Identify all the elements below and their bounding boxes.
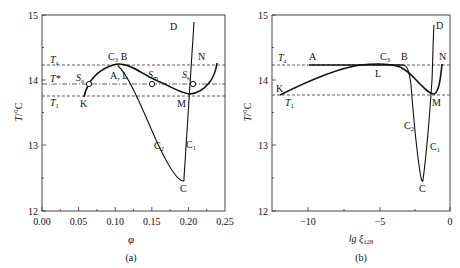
x-tick-label: 0.20 bbox=[180, 216, 198, 227]
point-Sa bbox=[86, 81, 91, 86]
y-axis-label-b: T/°C bbox=[242, 102, 253, 121]
panel-b: 15 14 13 12 T/°C −10 −5 0 lg ξ128 (b) Ta bbox=[242, 10, 453, 264]
label-L-b: L bbox=[375, 68, 381, 79]
x-tick-label: −10 bbox=[300, 216, 316, 227]
x-tick-label: 0.00 bbox=[33, 216, 51, 227]
x-tick-label: −5 bbox=[375, 216, 386, 227]
label-C3-b: C3 bbox=[380, 51, 390, 63]
y-tick-label: 13 bbox=[28, 140, 38, 151]
label-Sm: Sm bbox=[148, 69, 158, 81]
plot-frame-a bbox=[42, 15, 225, 211]
label-C: C bbox=[180, 183, 187, 194]
label-C-b: C bbox=[419, 183, 426, 194]
panel-caption-b: (b) bbox=[355, 252, 367, 264]
label-Ta-b: Ta bbox=[278, 52, 287, 64]
label-T1: T1 bbox=[50, 97, 59, 109]
label-K-b: K bbox=[276, 83, 284, 94]
label-D: D bbox=[170, 21, 177, 32]
label-C3B: C₃ B bbox=[108, 51, 128, 62]
label-N-b: N bbox=[439, 51, 446, 62]
y-tick-label: 15 bbox=[28, 10, 38, 21]
x-tick-label: 0.25 bbox=[216, 216, 234, 227]
label-M-b: M bbox=[432, 97, 441, 108]
label-D-b: D bbox=[436, 20, 443, 31]
label-N: N bbox=[198, 51, 205, 62]
label-Ss: Ss bbox=[182, 69, 190, 81]
curve-K-L-M-N-b bbox=[280, 64, 442, 95]
y-tick-label: 14 bbox=[28, 75, 38, 86]
plot-frame-b bbox=[272, 15, 450, 211]
x-tick-label: 0 bbox=[448, 216, 453, 227]
figure: 15 14 13 12 T/°C 0.00 0.05 0.10 0.15 0.2… bbox=[0, 0, 460, 268]
x-axis-a: 0.00 0.05 0.10 0.15 0.20 0.25 bbox=[33, 207, 234, 227]
x-tick-label: 0.15 bbox=[143, 216, 161, 227]
x-axis-b: −10 −5 0 bbox=[300, 207, 452, 227]
label-Sa: Sa bbox=[76, 72, 84, 84]
label-C2: C2 bbox=[154, 140, 164, 152]
panel-a: 15 14 13 12 T/°C 0.00 0.05 0.10 0.15 0.2… bbox=[13, 10, 234, 264]
label-Ta: Ta bbox=[50, 54, 59, 66]
label-Tstar: T* bbox=[50, 73, 61, 84]
label-C1-b: C1 bbox=[430, 141, 440, 153]
label-K: K bbox=[80, 98, 88, 109]
x-axis-label-b: lg ξ128 bbox=[349, 233, 373, 245]
label-C2-b: C2 bbox=[404, 120, 414, 132]
point-Sm bbox=[149, 81, 154, 86]
y-tick-label: 15 bbox=[258, 10, 268, 21]
y-axis-label-a: T/°C bbox=[13, 102, 24, 121]
label-A-b: A bbox=[309, 51, 317, 62]
y-tick-label: 13 bbox=[258, 140, 268, 151]
x-tick-label: 0.05 bbox=[70, 216, 88, 227]
y-tick-label: 14 bbox=[258, 75, 268, 86]
y-tick-label: 12 bbox=[258, 206, 268, 217]
y-axis-b: 15 14 13 12 bbox=[258, 10, 276, 217]
label-AL: A, L bbox=[110, 70, 128, 81]
panel-caption-a: (a) bbox=[125, 252, 136, 264]
label-M: M bbox=[177, 98, 186, 109]
label-T1-b: T1 bbox=[285, 97, 294, 109]
point-Ss bbox=[190, 81, 195, 86]
y-axis-a: 15 14 13 12 bbox=[28, 10, 46, 217]
x-axis-label-a: φ bbox=[128, 233, 134, 245]
label-B-b: B bbox=[401, 51, 408, 62]
label-C1: C1 bbox=[186, 139, 196, 151]
x-tick-label: 0.10 bbox=[106, 216, 124, 227]
